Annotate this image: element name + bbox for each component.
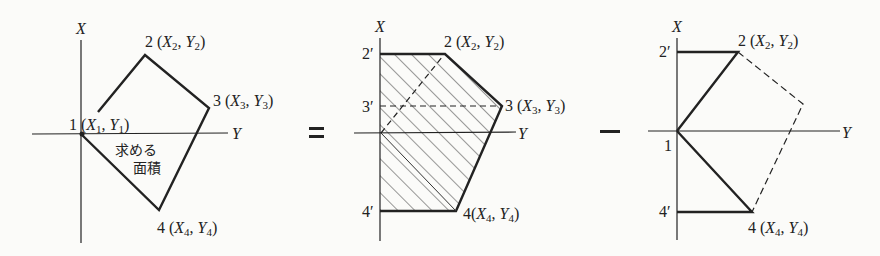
point-2-label: 2 (X2, Y2) <box>738 32 798 51</box>
projection-2-label: 2′ <box>659 43 671 60</box>
point-3-label: 3 (X3, Y3) <box>213 92 273 111</box>
projection-3-label: 3′ <box>362 98 374 115</box>
point-3-label: 3 (X3, Y3) <box>505 97 565 116</box>
x-axis-label: X <box>374 18 386 35</box>
y-axis-label: Y <box>842 124 853 141</box>
y-axis-label: Y <box>518 125 529 142</box>
projection-2-label: 2′ <box>362 45 374 62</box>
x-axis-label: X <box>75 20 87 37</box>
point-4-label: 4(X4, Y4) <box>463 205 519 224</box>
minus-operator <box>600 130 620 133</box>
polygon-dashed-outline <box>738 52 803 212</box>
panel-left: X Y 2 (X2, Y2) 3 (X3, Y3) 1 (X1, Y1) 4 (… <box>32 20 273 243</box>
panel-middle: X Y 2′ 3′ 4′ 2 (X2, Y2) 3 (X3, Y3) 4(X4,… <box>354 18 565 241</box>
area-label-line2: 面積 <box>133 160 161 176</box>
triangle-lower <box>677 131 752 212</box>
x-axis-label: X <box>671 18 683 35</box>
equals-operator <box>309 127 324 138</box>
area-calculation-diagram: X Y 2 (X2, Y2) 3 (X3, Y3) 1 (X1, Y1) 4 (… <box>0 0 880 256</box>
point-2-label: 2 (X2, Y2) <box>444 33 504 52</box>
area-label-line1: 求める <box>115 142 157 158</box>
point-1-label: 1 (X1, Y1) <box>69 116 129 135</box>
projection-4-label: 4′ <box>362 203 374 220</box>
panel-right: X Y 2′ 1 4′ 2 (X2, Y2) 4 (X4, Y4) <box>648 18 853 240</box>
point-1-label: 1 <box>664 137 672 154</box>
triangle-upper <box>677 52 738 131</box>
y-axis <box>32 133 228 134</box>
point-4-label: 4 (X4, Y4) <box>748 219 808 238</box>
point-2-label: 2 (X2, Y2) <box>145 33 205 52</box>
point-4-label: 4 (X4, Y4) <box>157 219 217 238</box>
projection-4-label: 4′ <box>659 203 671 220</box>
y-axis-label: Y <box>232 125 243 142</box>
